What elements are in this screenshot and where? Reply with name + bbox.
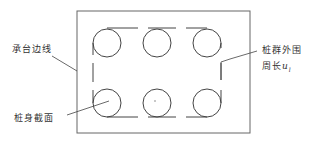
pile-circle (93, 89, 121, 117)
label-group-perimeter-prefix: 周长 (262, 61, 282, 71)
group-perimeter (93, 28, 221, 117)
pile-center-dot (154, 100, 155, 101)
pile-circle (93, 29, 121, 57)
pile-circle (193, 29, 221, 57)
leader-lines (52, 51, 257, 115)
leader-cap-edge (52, 56, 77, 71)
label-pile-section: 桩身截面 (14, 112, 54, 124)
pile-circle (143, 89, 171, 117)
label-group-perimeter-line2: 周长ul (262, 60, 302, 76)
pile-sections (93, 29, 221, 117)
label-group-perimeter: 桩群外围 周长ul (262, 44, 302, 76)
pile-circle (193, 89, 221, 117)
label-cap-edge: 承台边线 (12, 43, 52, 55)
perimeter-subscript: l (289, 66, 292, 73)
leader-group-perimeter (221, 51, 257, 80)
leader-pile-section (67, 101, 109, 115)
label-group-perimeter-line1: 桩群外围 (262, 44, 302, 56)
perimeter-symbol: u (282, 61, 289, 71)
pile-circle (143, 29, 171, 57)
